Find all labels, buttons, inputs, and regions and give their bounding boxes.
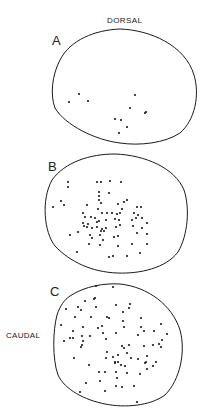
data-dot (135, 217, 137, 219)
data-dot (80, 309, 82, 311)
data-dot (100, 181, 102, 183)
data-dot (89, 234, 91, 236)
data-dot (131, 243, 133, 245)
data-dot (129, 107, 131, 109)
data-dot (115, 304, 117, 306)
data-dot (72, 330, 74, 332)
data-dot (120, 181, 122, 183)
data-dot (121, 208, 123, 210)
data-dot (108, 317, 110, 319)
data-dot (69, 234, 71, 236)
data-dot (89, 335, 91, 337)
data-dot (72, 337, 74, 339)
data-dot (131, 219, 133, 221)
panel-a-dots (68, 93, 147, 134)
panel-a-outline (52, 29, 196, 144)
data-dot (98, 199, 100, 201)
data-dot (106, 316, 108, 318)
data-dot (101, 212, 103, 214)
data-dot (126, 126, 128, 128)
data-dot (152, 365, 154, 367)
data-dot (119, 224, 121, 226)
data-dot (86, 226, 88, 228)
data-dot (120, 119, 122, 121)
data-dot (60, 200, 62, 202)
data-dot (114, 218, 116, 220)
data-dot (141, 217, 143, 219)
data-dot (105, 357, 107, 359)
data-dot (118, 219, 120, 221)
data-dot (111, 212, 113, 214)
data-dot (63, 204, 65, 206)
data-dot (137, 334, 139, 336)
data-dot (102, 332, 104, 334)
data-dot (94, 217, 96, 219)
data-dot (146, 233, 148, 235)
data-dot (119, 212, 121, 214)
data-dot (126, 255, 128, 257)
data-dot (112, 286, 114, 288)
caudal-label: CAUDAL (6, 331, 41, 340)
figure-canvas: DORSAL CAUDAL A B C (0, 0, 201, 418)
data-dot (82, 222, 84, 224)
data-dot (87, 100, 89, 102)
data-dot (146, 222, 148, 224)
data-dot (67, 181, 69, 183)
data-dot (112, 356, 114, 358)
data-dot (85, 382, 87, 384)
data-dot (123, 326, 125, 328)
data-dot (132, 225, 134, 227)
data-dot (116, 377, 118, 379)
data-dot (161, 339, 163, 341)
data-dot (105, 219, 107, 221)
data-dot (88, 364, 90, 366)
data-dot (69, 337, 71, 339)
data-dot (78, 93, 80, 95)
data-dot (81, 335, 83, 337)
data-dot (106, 212, 108, 214)
data-dot (108, 256, 110, 258)
data-dot (158, 343, 160, 345)
data-dot (145, 361, 147, 363)
data-dot (80, 346, 82, 348)
data-dot (90, 216, 92, 218)
data-dot (153, 330, 155, 332)
data-dot (98, 191, 100, 193)
data-dot (115, 226, 117, 228)
data-dot (113, 236, 115, 238)
data-dot (128, 307, 130, 309)
data-dot (140, 206, 142, 208)
data-dot (126, 352, 128, 354)
data-dot (95, 306, 97, 308)
data-dot (84, 300, 86, 302)
data-dot (106, 351, 108, 353)
data-dot (77, 306, 79, 308)
data-dot (98, 371, 100, 373)
data-dot (112, 255, 114, 257)
data-dot (82, 340, 84, 342)
data-dot (86, 204, 88, 206)
data-dot (82, 326, 84, 328)
data-dot (139, 373, 141, 375)
data-dot (103, 230, 105, 232)
data-dot (137, 214, 139, 216)
data-dot (118, 132, 120, 134)
data-dot (98, 220, 100, 222)
data-dot (136, 401, 138, 403)
data-dot (120, 364, 122, 366)
data-dot (105, 338, 107, 340)
data-dot (99, 234, 101, 236)
panel-c-outline (54, 284, 183, 406)
data-dot (52, 206, 54, 208)
data-dot (101, 228, 103, 230)
data-dot (115, 371, 117, 373)
data-dot (143, 345, 145, 347)
data-dot (129, 303, 131, 305)
data-dot (160, 346, 162, 348)
data-dot (133, 385, 135, 387)
data-dot (91, 237, 93, 239)
data-dot (115, 385, 117, 387)
data-dot (117, 235, 119, 237)
panel-b-letter: B (48, 159, 57, 174)
data-dot (87, 223, 89, 225)
